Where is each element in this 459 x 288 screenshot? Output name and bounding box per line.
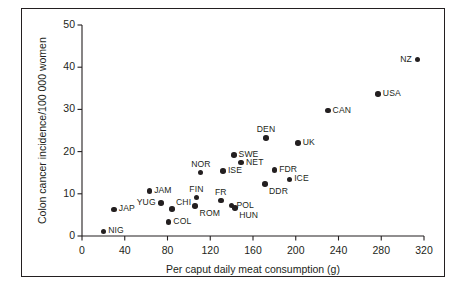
- data-point-marker: [232, 205, 238, 211]
- data-point-marker: [192, 203, 198, 209]
- data-point-label: FR: [215, 187, 227, 197]
- data-point-label: POL: [236, 200, 254, 210]
- chart-frame: 0102030405004080120160200240280320 NIGJA…: [21, 8, 445, 277]
- data-point-label: JAM: [154, 185, 172, 195]
- data-point-label: ICE: [294, 173, 309, 183]
- data-point-label: NZ: [400, 54, 412, 64]
- y-axis-title: Colon cancer incidence/100 000 women: [36, 37, 48, 224]
- data-point-marker: [169, 206, 175, 212]
- figure-canvas: 0102030405004080120160200240280320 NIGJA…: [0, 0, 459, 288]
- data-point-marker: [218, 198, 224, 204]
- x-tick-label: 120: [190, 244, 230, 256]
- data-point-label: USA: [383, 88, 401, 98]
- x-tick-label: 320: [404, 244, 444, 256]
- x-tick-label: 240: [319, 244, 359, 256]
- x-tick-label: 40: [105, 244, 145, 256]
- axes-svg: [22, 9, 446, 278]
- data-point-label: CAN: [333, 105, 351, 115]
- data-point-label: DEN: [257, 124, 275, 134]
- data-point-marker: [272, 167, 278, 173]
- data-point-marker: [220, 168, 226, 174]
- x-tick-label: 200: [276, 244, 316, 256]
- data-point-marker: [295, 140, 301, 146]
- y-tick-label: 0: [42, 229, 75, 241]
- data-point-label: NET: [246, 157, 264, 167]
- x-tick-label: 80: [148, 244, 188, 256]
- data-point-label: NOR: [191, 159, 210, 169]
- data-point-label: DDR: [269, 186, 288, 196]
- data-point-label: ROM: [200, 208, 220, 218]
- data-point-label: HUN: [239, 210, 258, 220]
- data-point-label: NIG: [108, 225, 124, 235]
- x-tick-label: 160: [233, 244, 273, 256]
- data-point-label: ISE: [228, 165, 242, 175]
- data-point-label: COL: [173, 216, 191, 226]
- x-tick-label: 0: [62, 244, 102, 256]
- data-point-marker: [375, 91, 381, 97]
- data-point-label: UK: [303, 137, 315, 147]
- data-point-marker: [263, 135, 269, 141]
- x-tick-label: 280: [361, 244, 401, 256]
- x-axis-title: Per caput daily meat consumption (g): [166, 263, 340, 275]
- data-point-marker: [231, 152, 237, 158]
- data-point-marker: [158, 200, 164, 206]
- data-point-marker: [111, 207, 117, 213]
- data-point-label: JAP: [119, 203, 135, 213]
- data-point-marker: [325, 108, 331, 114]
- data-point-marker: [262, 181, 268, 187]
- data-point-label: FIN: [189, 184, 203, 194]
- data-point-marker: [147, 188, 153, 194]
- y-tick-label: 50: [42, 18, 75, 30]
- data-point-label: CHI: [176, 197, 191, 207]
- data-point-label: YUG: [137, 197, 156, 207]
